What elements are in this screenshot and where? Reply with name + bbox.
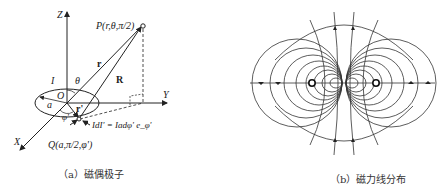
- point-p-label: P(r,θ,π/2): [95, 20, 135, 32]
- point-q-marker: [77, 117, 81, 121]
- radius-label: a: [47, 99, 52, 110]
- caption-b: （b）磁力线分布: [330, 171, 406, 186]
- z-axis-label: Z: [57, 9, 63, 20]
- current-element-label: IdI' = Iadφ' e_φ': [91, 120, 153, 130]
- left-pole-icon: [309, 80, 315, 86]
- current-label: I: [50, 75, 55, 86]
- x-axis-label: X: [13, 136, 21, 147]
- origin-label: O: [57, 90, 64, 101]
- magnetic-dipole-diagram: Z Y X P(r,θ,π/2) r R I θ O a φ' r' IdI' …: [0, 0, 230, 194]
- current-element-arrow-2: [83, 121, 90, 125]
- point-q-label: Q(a,π/2,φ'): [48, 139, 93, 151]
- right-pole-icon: [373, 80, 379, 86]
- y-axis-label: Y: [163, 89, 170, 100]
- vector-R-label: R: [116, 74, 124, 85]
- point-p-marker: [141, 24, 145, 28]
- theta-label: θ: [75, 75, 80, 86]
- dipole-geometry-svg: Z Y X P(r,θ,π/2) r R I θ O a φ' r' IdI' …: [0, 0, 230, 194]
- projection-base: [80, 103, 143, 119]
- vector-r-prime-label: r': [76, 103, 83, 114]
- vector-r: [67, 27, 141, 103]
- caption-a: （a）磁偶极子: [58, 166, 124, 181]
- field-lines-diagram: （b）磁力线分布: [240, 0, 447, 194]
- vector-r-label: r: [97, 58, 102, 69]
- current-element-arrow-1: [70, 120, 77, 125]
- vector-R: [79, 27, 141, 119]
- field-lines-svg: [240, 0, 447, 194]
- theta-arc: [67, 90, 75, 93]
- phi-prime-label: φ': [62, 112, 70, 122]
